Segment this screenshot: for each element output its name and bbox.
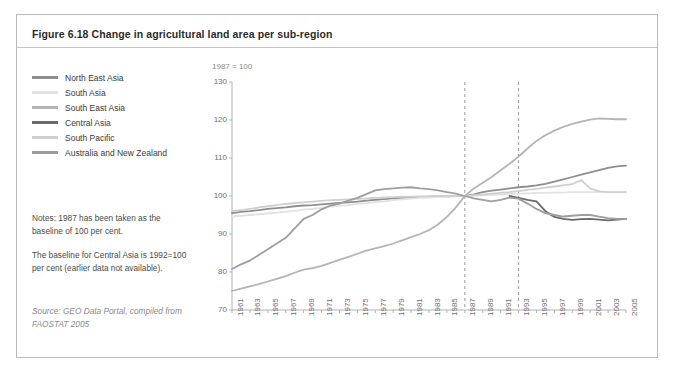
legend-item-label: Central Asia bbox=[65, 118, 111, 128]
legend-swatch-icon bbox=[32, 91, 58, 94]
y-axis-label: 110 bbox=[209, 153, 227, 162]
chart-svg bbox=[206, 76, 636, 316]
figure-source: Source: GEO Data Portal, compiled from F… bbox=[32, 305, 202, 332]
chart-legend: North East AsiaSouth AsiaSouth East Asia… bbox=[32, 70, 182, 160]
figure-notes: Notes: 1987 has been taken as the baseli… bbox=[32, 212, 192, 286]
x-axis-label: 1963 bbox=[253, 298, 262, 316]
x-axis-label: 1999 bbox=[576, 298, 585, 316]
x-axis-label: 1969 bbox=[307, 298, 316, 316]
x-axis-label: 1997 bbox=[558, 298, 567, 316]
y-axis-label: 120 bbox=[209, 115, 227, 124]
line-chart: 7080901001101201301961196319651967196919… bbox=[206, 76, 636, 316]
x-axis-label: 1973 bbox=[343, 298, 352, 316]
figure-page: Figure 6.18 Change in agricultural land … bbox=[0, 0, 674, 372]
x-axis-label: 1965 bbox=[271, 298, 280, 316]
legend-item: South East Asia bbox=[32, 100, 182, 115]
series-line bbox=[232, 187, 626, 269]
x-axis-label: 1995 bbox=[540, 298, 549, 316]
x-axis-label: 1979 bbox=[397, 298, 406, 316]
y-axis-label: 100 bbox=[209, 191, 227, 200]
x-axis-label: 1987 bbox=[468, 298, 477, 316]
y-axis-label: 90 bbox=[209, 229, 227, 238]
x-axis-label: 1975 bbox=[361, 298, 370, 316]
note-line-1: Notes: 1987 has been taken as the baseli… bbox=[32, 212, 192, 239]
figure-title: Figure 6.18 Change in agricultural land … bbox=[32, 28, 333, 40]
legend-swatch-icon bbox=[32, 151, 58, 154]
x-axis-label: 1977 bbox=[379, 298, 388, 316]
y-axis-label: 130 bbox=[209, 77, 227, 86]
x-axis-label: 2001 bbox=[594, 298, 603, 316]
legend-swatch-icon bbox=[32, 76, 58, 79]
y-axis-label: 70 bbox=[209, 305, 227, 314]
x-axis-label: 1991 bbox=[504, 298, 513, 316]
legend-item: South Pacific bbox=[32, 130, 182, 145]
legend-item: Australia and New Zealand bbox=[32, 145, 182, 160]
chart-area: 1987 = 100 70809010011012013019611963196… bbox=[206, 62, 636, 338]
legend-item: Central Asia bbox=[32, 115, 182, 130]
x-axis-label: 1981 bbox=[415, 298, 424, 316]
legend-item-label: North East Asia bbox=[65, 73, 124, 83]
legend-item-label: South East Asia bbox=[65, 103, 125, 113]
title-divider bbox=[17, 47, 657, 48]
x-axis-label: 1983 bbox=[433, 298, 442, 316]
x-axis-label: 1967 bbox=[289, 298, 298, 316]
legend-swatch-icon bbox=[32, 121, 58, 124]
x-axis-label: 1989 bbox=[486, 298, 495, 316]
legend-item-label: South Asia bbox=[65, 88, 106, 98]
baseline-label: 1987 = 100 bbox=[212, 62, 252, 71]
legend-item: South Asia bbox=[32, 85, 182, 100]
x-axis-label: 2005 bbox=[630, 298, 639, 316]
legend-item: North East Asia bbox=[32, 70, 182, 85]
legend-item-label: South Pacific bbox=[65, 133, 115, 143]
series-line bbox=[232, 118, 626, 291]
legend-item-label: Australia and New Zealand bbox=[65, 148, 167, 158]
y-axis-label: 80 bbox=[209, 267, 227, 276]
legend-swatch-icon bbox=[32, 136, 58, 139]
x-axis-label: 1993 bbox=[522, 298, 531, 316]
x-axis-label: 1971 bbox=[325, 298, 334, 316]
note-line-2: The baseline for Central Asia is 1992=10… bbox=[32, 249, 192, 276]
x-axis-label: 2003 bbox=[612, 298, 621, 316]
x-axis-label: 1985 bbox=[450, 298, 459, 316]
legend-swatch-icon bbox=[32, 106, 58, 109]
x-axis-label: 1961 bbox=[236, 298, 245, 316]
